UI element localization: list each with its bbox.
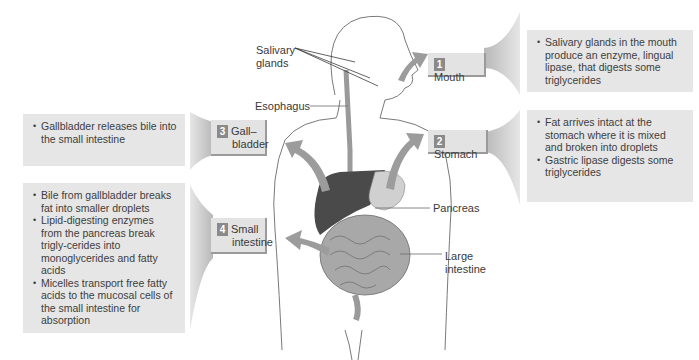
mouth-connector — [484, 12, 520, 95]
stomach-arrow — [386, 133, 424, 190]
step-mouth: 1Mouth — [428, 53, 486, 77]
esophagus-label: Esophagus — [255, 100, 310, 113]
gallbladder-connector — [190, 112, 213, 170]
bullet: Bile from gallbladder breaks fat into sm… — [33, 189, 177, 214]
step-label-line2: bladder — [217, 138, 259, 151]
gallbladder-arrow — [285, 140, 330, 192]
small-intestine-connector — [190, 185, 213, 330]
step-number-badge: 4 — [217, 223, 228, 236]
stomach — [369, 171, 405, 210]
pancreas-label: Pancreas — [433, 202, 479, 215]
intestines — [320, 215, 410, 295]
step-label-line2: intestine — [217, 236, 259, 249]
step-label-line1: Gall– — [231, 125, 257, 137]
bullet: Micelles transport free fatty acids to t… — [33, 277, 177, 327]
mouth-description: Salivary glands in the mouth produce an … — [527, 30, 693, 92]
large-intestine-label: Large intestine — [445, 250, 486, 276]
step-label: Mouth — [434, 71, 465, 83]
step-number-badge: 1 — [434, 58, 445, 71]
gallbladder-description: Gallbladder releases bile into the small… — [23, 114, 185, 166]
step-label-line1: Small — [231, 223, 259, 235]
salivary-glands-label: Salivary glands — [256, 44, 295, 70]
stomach-connector — [484, 110, 520, 205]
bullet: Lipid-digesting enzymes from the pancrea… — [33, 214, 177, 277]
step-label: Stomach — [434, 148, 477, 160]
bullet: Gallbladder releases bile into the small… — [33, 120, 177, 145]
small-intestine-description: Bile from gallbladder breaks fat into sm… — [23, 183, 185, 333]
bullet: Fat arrives intact at the stomach where … — [537, 116, 685, 154]
step-gallbladder: 3Gall– bladder — [211, 120, 267, 156]
step-small-intestine: 4Small intestine — [211, 218, 267, 254]
step-stomach: 2Stomach — [428, 130, 488, 154]
step-number-badge: 2 — [434, 135, 445, 148]
stomach-description: Fat arrives intact at the stomach where … — [527, 110, 693, 202]
step-number-badge: 3 — [217, 125, 228, 138]
bullet: Gastric lipase digests some triglyceride… — [537, 154, 685, 179]
bullet: Salivary glands in the mouth produce an … — [537, 36, 685, 86]
